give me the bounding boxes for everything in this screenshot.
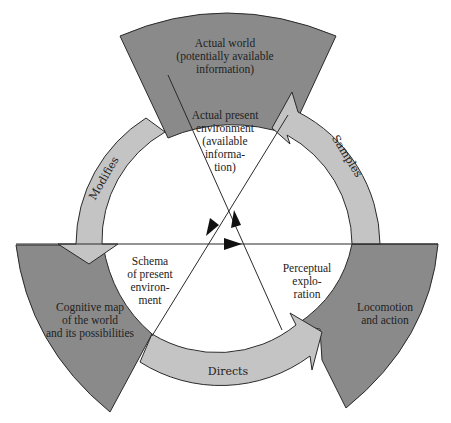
label-directs: Directs xyxy=(208,365,249,378)
text-line: information) xyxy=(150,63,300,76)
text-line: of the world xyxy=(40,314,140,327)
arrowhead-right xyxy=(224,238,242,250)
text-line: and action xyxy=(345,314,425,327)
text-line: of present xyxy=(115,268,185,281)
arrow-modifies xyxy=(58,118,165,264)
text-line: (available xyxy=(180,135,270,148)
text-line: Actual world xyxy=(150,37,300,50)
text-line: ment xyxy=(115,294,185,307)
text-line: environment xyxy=(180,122,270,135)
text-line: explo- xyxy=(272,275,342,288)
text-line: and its possibilities xyxy=(40,327,140,340)
text-line: Perceptual xyxy=(272,262,342,275)
arrow-samples xyxy=(272,92,380,244)
inner-label-schema: Schema of present environ- ment xyxy=(115,255,185,307)
arrowhead-up-right xyxy=(231,210,241,228)
text-line: informa- xyxy=(180,148,270,161)
text-line: Actual present xyxy=(180,109,270,122)
arrowhead-down-left xyxy=(206,218,219,236)
text-line: tion) xyxy=(180,161,270,174)
sector-label-actual-world: Actual world (potentially available info… xyxy=(150,37,300,76)
sector-label-locomotion: Locomotion and action xyxy=(345,301,425,327)
text-line: environ- xyxy=(115,281,185,294)
text-line: Schema xyxy=(115,255,185,268)
inner-label-actual-present: Actual present environment (available in… xyxy=(180,109,270,174)
inner-label-perceptual-exploration: Perceptual explo- ration xyxy=(272,262,342,301)
perceptual-cycle-diagram: Modifies Samples Directs Actual world (p… xyxy=(0,0,451,423)
text-line: (potentially available xyxy=(150,50,300,63)
text-line: ration xyxy=(272,288,342,301)
text-line: Locomotion xyxy=(345,301,425,314)
